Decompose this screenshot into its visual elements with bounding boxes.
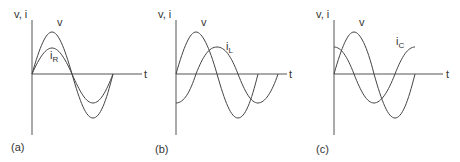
label-v-a: v [57,16,63,28]
t-axis-label-b: t [289,68,292,80]
curve-iL-b [176,47,278,103]
t-axis-label-a: t [144,68,147,80]
y-axis-label-b: v, i [158,8,171,20]
label-v-c: v [359,16,365,28]
curve-v-b [176,32,258,118]
caption-a: (a) [11,141,24,153]
t-axis-label-c: t [446,68,449,80]
label-iR-a: iR [50,49,58,64]
phase-diagram: v, i t v iR (a) v, i t v iL (b) v, i t v… [0,0,460,162]
label-iC-c: iC [396,35,404,50]
curve-iR-a [32,48,113,103]
label-v-b: v [201,16,207,28]
y-axis-label-a: v, i [14,8,27,20]
caption-b: (b) [155,143,168,155]
caption-c: (c) [316,143,329,155]
panel-a: v, i t v iR (a) [11,8,147,153]
y-axis-label-c: v, i [316,8,329,20]
panel-b: v, i t v iL (b) [155,8,292,155]
panel-c: v, i t v iC (c) [316,8,449,155]
